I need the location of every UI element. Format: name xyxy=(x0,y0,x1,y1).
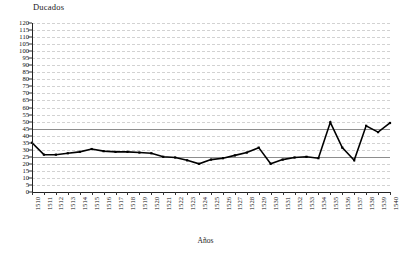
data-point-marker xyxy=(103,150,105,152)
x-tick-mark xyxy=(163,192,164,195)
data-point-marker xyxy=(341,147,343,149)
x-tick-mark xyxy=(235,192,236,195)
chart-container: Ducados 05101520253035404550556065707580… xyxy=(0,0,411,260)
data-point-marker xyxy=(389,122,391,124)
data-series-line xyxy=(32,23,390,192)
data-point-marker xyxy=(270,163,272,165)
x-tick-label: 1538 xyxy=(369,197,376,210)
x-tick-mark xyxy=(306,192,307,195)
data-point-marker xyxy=(282,159,284,161)
x-tick-mark xyxy=(104,192,105,195)
data-point-marker xyxy=(210,159,212,161)
x-tick-label: 1512 xyxy=(58,197,65,210)
x-tick-mark xyxy=(378,192,379,195)
data-point-marker xyxy=(317,157,319,159)
data-point-marker xyxy=(365,125,367,127)
x-tick-label: 1531 xyxy=(285,197,292,210)
data-point-marker xyxy=(150,152,152,154)
x-tick-label: 1528 xyxy=(249,197,256,210)
x-tick-mark xyxy=(32,192,33,195)
x-tick-label: 1535 xyxy=(333,197,340,210)
x-tick-label: 1529 xyxy=(261,197,268,210)
series-line-ducados xyxy=(32,122,390,164)
x-tick-mark xyxy=(187,192,188,195)
x-tick-label: 1524 xyxy=(202,197,209,210)
data-point-marker xyxy=(162,156,164,158)
x-tick-mark xyxy=(211,192,212,195)
plot-area xyxy=(32,23,390,192)
data-point-marker xyxy=(174,156,176,158)
x-tick-mark xyxy=(390,192,391,195)
x-tick-mark xyxy=(199,192,200,195)
data-point-marker xyxy=(305,156,307,158)
x-tick-label: 1526 xyxy=(226,197,233,210)
x-tick-label: 1514 xyxy=(82,197,89,210)
x-tick-label: 1530 xyxy=(273,197,280,210)
x-tick-mark xyxy=(247,192,248,195)
x-tick-mark xyxy=(223,192,224,195)
data-point-marker xyxy=(258,147,260,149)
data-point-marker xyxy=(43,154,45,156)
x-tick-mark xyxy=(354,192,355,195)
x-tick-mark xyxy=(295,192,296,195)
x-tick-label: 1532 xyxy=(297,197,304,210)
data-point-marker xyxy=(329,121,331,123)
x-tick-mark xyxy=(139,192,140,195)
x-tick-mark xyxy=(44,192,45,195)
y-axis-labels: 0510152025303540455055606570758085909510… xyxy=(0,0,32,193)
x-tick-label: 1519 xyxy=(142,197,149,210)
x-tick-label: 1517 xyxy=(118,197,125,210)
x-tick-mark xyxy=(271,192,272,195)
data-point-marker xyxy=(114,151,116,153)
data-point-marker xyxy=(246,151,248,153)
x-tick-mark xyxy=(366,192,367,195)
x-tick-mark xyxy=(259,192,260,195)
data-point-marker xyxy=(126,151,128,153)
x-tick-mark xyxy=(151,192,152,195)
x-tick-mark xyxy=(330,192,331,195)
data-point-marker xyxy=(67,152,69,154)
x-tick-label: 1521 xyxy=(166,197,173,210)
x-tick-label: 1536 xyxy=(345,197,352,210)
data-point-marker xyxy=(377,131,379,133)
x-tick-mark xyxy=(283,192,284,195)
x-tick-label: 1520 xyxy=(154,197,161,210)
x-tick-label: 1533 xyxy=(309,197,316,210)
x-tick-mark xyxy=(92,192,93,195)
x-tick-label: 1513 xyxy=(70,197,77,210)
x-tick-mark xyxy=(116,192,117,195)
x-tick-mark xyxy=(318,192,319,195)
data-point-marker xyxy=(198,163,200,165)
data-point-marker xyxy=(234,154,236,156)
x-tick-label: 1525 xyxy=(214,197,221,210)
x-tick-label: 1510 xyxy=(35,197,42,210)
x-tick-mark xyxy=(342,192,343,195)
x-tick-mark xyxy=(175,192,176,195)
x-tick-label: 1518 xyxy=(130,197,137,210)
data-point-marker xyxy=(55,154,57,156)
data-point-marker xyxy=(353,159,355,161)
y-axis-line xyxy=(32,23,33,193)
x-tick-label: 1515 xyxy=(94,197,101,210)
x-tick-mark xyxy=(56,192,57,195)
data-point-marker xyxy=(186,159,188,161)
x-tick-label: 1511 xyxy=(47,197,54,210)
x-tick-mark xyxy=(80,192,81,195)
x-tick-label: 1539 xyxy=(381,197,388,210)
x-tick-label: 1523 xyxy=(190,197,197,210)
x-tick-label: 1516 xyxy=(106,197,113,210)
x-tick-label: 1527 xyxy=(237,197,244,210)
data-point-marker xyxy=(293,156,295,158)
data-point-marker xyxy=(91,148,93,150)
data-point-marker xyxy=(79,151,81,153)
x-tick-mark xyxy=(68,192,69,195)
data-point-marker xyxy=(138,151,140,153)
x-axis-labels: 1510151115121513151415151516151715181519… xyxy=(0,192,411,242)
x-tick-label: 1537 xyxy=(357,197,364,210)
chart-title: Ducados xyxy=(33,2,64,12)
x-tick-label: 1534 xyxy=(321,197,328,210)
data-point-marker xyxy=(222,157,224,159)
x-tick-label: 1522 xyxy=(178,197,185,210)
x-tick-mark xyxy=(127,192,128,195)
x-axis-title: Años xyxy=(0,236,411,245)
